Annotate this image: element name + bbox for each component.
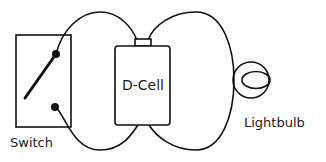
switch-lever xyxy=(25,54,56,98)
bulb-filament xyxy=(242,72,270,89)
bulb-label: Lightbulb xyxy=(244,116,305,129)
switch-box xyxy=(16,35,71,127)
battery-label: D-Cell xyxy=(122,78,164,92)
switch-label: Switch xyxy=(10,136,53,149)
switch-terminal-top xyxy=(52,50,60,58)
bulb-outer xyxy=(233,62,269,98)
switch-terminal-bottom xyxy=(51,103,59,111)
battery-cap xyxy=(135,39,151,46)
